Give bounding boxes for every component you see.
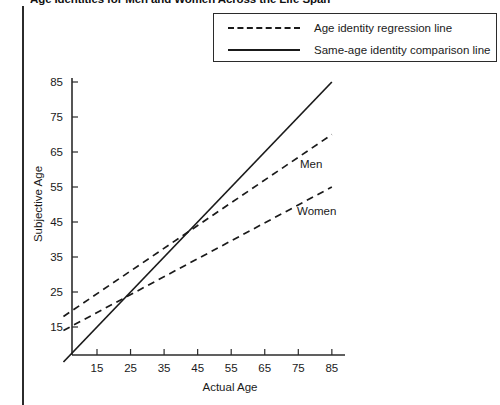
svg-text:65: 65 <box>258 362 271 374</box>
svg-text:25: 25 <box>124 362 137 374</box>
chart-canvas: 1525354555657585 1525354555657585 <box>0 0 500 405</box>
series-label-women: Women <box>297 205 336 217</box>
series-line-same-age-identity-comparison-line <box>63 82 331 362</box>
series-label-men: Men <box>300 158 322 170</box>
svg-text:55: 55 <box>225 362 238 374</box>
x-axis-title: Actual Age <box>170 381 290 393</box>
svg-text:15: 15 <box>91 362 104 374</box>
svg-text:75: 75 <box>50 111 63 123</box>
x-axis-tick-labels: 1525354555657585 <box>91 362 339 374</box>
svg-text:25: 25 <box>50 286 63 298</box>
svg-text:65: 65 <box>50 146 63 158</box>
series-line-men <box>63 135 331 317</box>
svg-text:55: 55 <box>50 181 63 193</box>
svg-text:35: 35 <box>50 251 63 263</box>
svg-text:75: 75 <box>292 362 305 374</box>
svg-text:15: 15 <box>50 321 63 333</box>
x-axis-ticks <box>97 349 332 355</box>
svg-text:45: 45 <box>50 216 63 228</box>
svg-text:35: 35 <box>158 362 171 374</box>
figure-container: Age Identities for Men and Women Across … <box>0 0 500 405</box>
svg-text:85: 85 <box>325 362 338 374</box>
plot-area: 1525354555657585 1525354555657585 Subjec… <box>0 0 500 405</box>
y-axis-ticks <box>72 82 78 327</box>
svg-text:85: 85 <box>50 76 63 88</box>
y-axis-title: Subjective Age <box>32 144 44 264</box>
svg-text:45: 45 <box>191 362 204 374</box>
series-line-women <box>63 187 331 331</box>
data-series-group <box>63 82 331 362</box>
y-axis-tick-labels: 1525354555657585 <box>50 76 63 333</box>
